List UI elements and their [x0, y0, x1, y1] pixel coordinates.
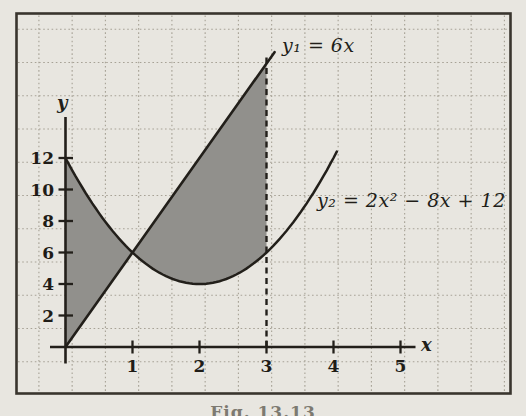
textbook-figure-page: y x y₁ = 6x y₂ = 2x² − 8x + 12 Fig. 13.1… — [0, 0, 526, 416]
x-axis-label: x — [421, 336, 432, 354]
x-tick-label-2: 2 — [188, 356, 212, 376]
y-tick-label-6: 6 — [20, 243, 54, 263]
parabola-equation-label: y₂ = 2x² − 8x + 12 — [317, 191, 506, 210]
y-tick-label-4: 4 — [20, 274, 54, 294]
x-tick-label-1: 1 — [121, 356, 145, 376]
figure-caption: Fig. 13.13 — [0, 404, 526, 416]
y-axis-label: y — [57, 94, 67, 112]
x-tick-label-4: 4 — [322, 356, 346, 376]
x-tick-label-3: 3 — [255, 356, 279, 376]
y-tick-label-10: 10 — [20, 180, 54, 200]
y-tick-label-8: 8 — [20, 211, 54, 231]
y-tick-label-2: 2 — [20, 306, 54, 326]
x-tick-label-5: 5 — [389, 356, 413, 376]
y-tick-label-12: 12 — [20, 148, 54, 168]
line-equation-label: y₁ = 6x — [282, 36, 355, 55]
